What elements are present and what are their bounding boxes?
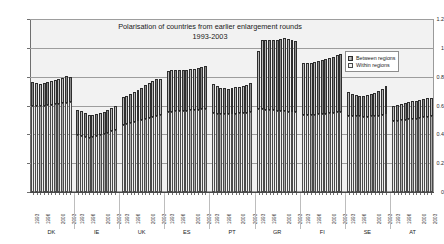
bar-gr-1996[interactable] xyxy=(268,40,271,192)
bar-pt-1993[interactable] xyxy=(212,84,215,192)
bar-fi-1996[interactable] xyxy=(313,62,316,192)
bar-dk-2001[interactable] xyxy=(61,78,64,192)
bar-fi-1995[interactable] xyxy=(310,63,313,192)
bar-at-1995[interactable] xyxy=(400,104,403,192)
bar-pt-1997[interactable] xyxy=(227,89,230,193)
bar-fi-1994[interactable] xyxy=(306,63,309,192)
bar-es-1993[interactable] xyxy=(167,71,170,192)
bar-gr-1995[interactable] xyxy=(264,40,267,192)
bar-dk-1995[interactable] xyxy=(39,84,42,192)
bar-pt-2000[interactable] xyxy=(238,87,241,192)
bar-es-2003[interactable] xyxy=(204,66,207,192)
bar-es-1997[interactable] xyxy=(182,70,185,192)
bar-at-2002[interactable] xyxy=(426,98,429,192)
bar-dk-1998[interactable] xyxy=(50,81,53,192)
bar-es-1999[interactable] xyxy=(189,69,192,192)
bar-ie-2000[interactable] xyxy=(103,112,106,192)
bar-dk-1999[interactable] xyxy=(54,80,57,192)
bar-gr-2001[interactable] xyxy=(287,39,290,192)
bar-gr-1997[interactable] xyxy=(272,40,275,192)
bar-se-1996[interactable] xyxy=(358,96,361,192)
bar-fi-2001[interactable] xyxy=(332,56,335,192)
bar-uk-2003[interactable] xyxy=(159,79,162,192)
bar-fi-1999[interactable] xyxy=(324,59,327,192)
bar-at-1993[interactable] xyxy=(392,106,395,193)
bar-at-1999[interactable] xyxy=(415,101,418,192)
bar-se-1997[interactable] xyxy=(362,96,365,192)
bar-dk-1994[interactable] xyxy=(35,83,38,192)
bar-at-1994[interactable] xyxy=(396,105,399,192)
bar-pt-2003[interactable] xyxy=(249,83,252,192)
bar-gr-2003[interactable] xyxy=(294,41,297,192)
bar-uk-1999[interactable] xyxy=(144,85,147,192)
bar-se-1993[interactable] xyxy=(347,92,350,192)
bar-uk-1998[interactable] xyxy=(140,87,143,192)
bar-ie-2001[interactable] xyxy=(106,110,109,192)
bar-se-2002[interactable] xyxy=(381,89,384,192)
bar-at-1997[interactable] xyxy=(407,102,410,192)
bar-se-2003[interactable] xyxy=(385,86,388,192)
bar-uk-1993[interactable] xyxy=(122,97,125,192)
bar-se-1999[interactable] xyxy=(370,94,373,192)
bar-dk-2002[interactable] xyxy=(65,76,68,192)
bar-ie-1993[interactable] xyxy=(76,110,79,192)
bar-dk-2003[interactable] xyxy=(69,77,72,192)
bar-dk-1996[interactable] xyxy=(43,83,46,192)
bar-dk-1993[interactable] xyxy=(31,82,34,192)
bar-fi-2002[interactable] xyxy=(336,55,339,192)
bar-uk-1995[interactable] xyxy=(129,94,132,192)
bar-ie-1994[interactable] xyxy=(80,111,83,192)
bar-fi-1997[interactable] xyxy=(317,61,320,192)
bar-dk-1997[interactable] xyxy=(46,82,49,192)
bar-es-2000[interactable] xyxy=(193,69,196,192)
bar-fi-2003[interactable] xyxy=(339,54,342,192)
bar-ie-1999[interactable] xyxy=(99,113,102,192)
bar-pt-1994[interactable] xyxy=(216,86,219,192)
bar-gr-2000[interactable] xyxy=(283,38,286,192)
bar-ie-2003[interactable] xyxy=(114,106,117,192)
bar-pt-2002[interactable] xyxy=(245,85,248,192)
bar-at-1998[interactable] xyxy=(411,101,414,192)
bar-dk-2000[interactable] xyxy=(57,79,60,192)
bar-at-2000[interactable] xyxy=(418,100,421,192)
bar-es-1996[interactable] xyxy=(178,70,181,192)
bar-segment-between-regions xyxy=(324,59,327,114)
bar-uk-2000[interactable] xyxy=(148,83,151,192)
bar-se-1995[interactable] xyxy=(355,95,358,192)
bar-at-2003[interactable] xyxy=(430,98,433,192)
bar-uk-1997[interactable] xyxy=(137,90,140,192)
bar-uk-1994[interactable] xyxy=(125,96,128,192)
bar-pt-1996[interactable] xyxy=(223,88,226,192)
bar-fi-1993[interactable] xyxy=(302,63,305,192)
bar-uk-2002[interactable] xyxy=(155,79,158,192)
bar-ie-1996[interactable] xyxy=(88,115,91,192)
bar-es-2002[interactable] xyxy=(200,67,203,192)
bar-pt-2001[interactable] xyxy=(242,86,245,192)
bar-gr-1994[interactable] xyxy=(261,40,264,192)
bar-pt-1998[interactable] xyxy=(231,88,234,192)
bar-es-1994[interactable] xyxy=(170,70,173,192)
bar-uk-1996[interactable] xyxy=(133,92,136,192)
bar-es-1995[interactable] xyxy=(174,70,177,192)
bar-at-1996[interactable] xyxy=(404,103,407,192)
bar-se-1998[interactable] xyxy=(366,95,369,192)
bar-ie-1998[interactable] xyxy=(95,114,98,192)
bar-es-2001[interactable] xyxy=(197,68,200,192)
bar-ie-1997[interactable] xyxy=(91,115,94,192)
bar-gr-1998[interactable] xyxy=(276,40,279,192)
bar-se-2000[interactable] xyxy=(373,93,376,192)
bar-fi-1998[interactable] xyxy=(321,60,324,192)
bar-pt-1999[interactable] xyxy=(234,87,237,192)
bar-se-2001[interactable] xyxy=(377,91,380,192)
bar-ie-1995[interactable] xyxy=(84,113,87,192)
bar-at-2001[interactable] xyxy=(422,99,425,192)
bar-uk-2001[interactable] xyxy=(151,81,154,192)
bar-se-1994[interactable] xyxy=(351,94,354,192)
bar-gr-1993[interactable] xyxy=(257,51,260,192)
bar-ie-2002[interactable] xyxy=(110,108,113,192)
bar-es-1998[interactable] xyxy=(185,70,188,192)
bar-gr-2002[interactable] xyxy=(291,40,294,192)
bar-pt-1995[interactable] xyxy=(219,87,222,192)
bar-fi-2000[interactable] xyxy=(328,58,331,192)
bar-gr-1999[interactable] xyxy=(279,39,282,192)
